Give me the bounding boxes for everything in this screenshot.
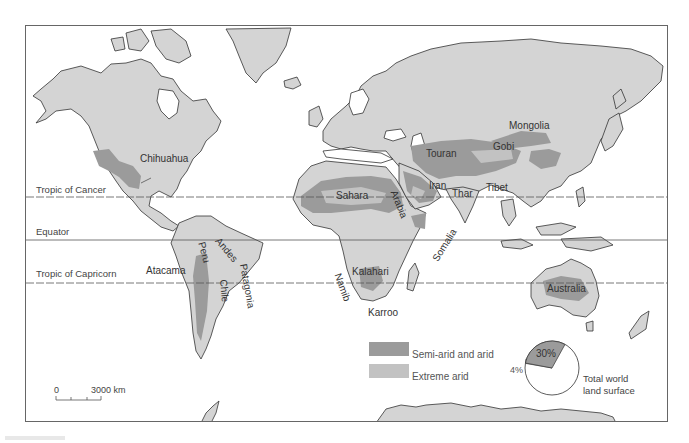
pie-label-30: 30% [536,349,556,359]
region-label-iran: Iran [429,181,446,191]
legend-swatch-semi-arid [369,342,409,356]
region-label-tibet: Tibet [486,183,508,193]
north-america [33,59,221,231]
pie-caption-line1: Total world [583,374,628,384]
tropic-of-capricorn-label: Tropic of Capricorn [36,269,116,279]
region-label-chile: Chile [218,279,230,303]
pie-caption-line2: land surface [583,386,635,396]
region-label-mongolia: Mongolia [509,121,550,131]
pie-label-4: 4% [510,366,523,375]
greenland [226,28,291,83]
region-label-australia: Australia [547,284,586,294]
scale-bar-start: 0 [54,386,59,395]
equator-label: Equator [36,227,69,237]
tropic-of-cancer-label: Tropic of Cancer [36,185,106,195]
region-label-sahara: Sahara [336,191,368,201]
region-label-kalahari: Kalahari [352,267,389,277]
legend-label-extreme-arid: Extreme arid [412,371,469,382]
legend-swatch-extreme-arid [369,364,409,378]
legend-label-semi-arid: Semi-arid and arid [412,349,494,360]
world-map [26,26,668,422]
caption-strip [5,436,65,440]
region-label-atacama: Atacama [146,266,185,276]
scale-bar-graphic [56,396,101,400]
region-label-thar: Thar [452,189,473,199]
region-label-chihuahua: Chihuahua [140,154,188,164]
map-frame: Tropic of Cancer Equator Tropic of Capri… [25,25,668,422]
region-label-touran: Touran [426,149,457,159]
antarctica [376,403,616,422]
region-label-gobi: Gobi [493,142,514,152]
scale-bar-end: 3000 km [91,386,126,395]
region-label-karroo: Karroo [368,308,398,318]
